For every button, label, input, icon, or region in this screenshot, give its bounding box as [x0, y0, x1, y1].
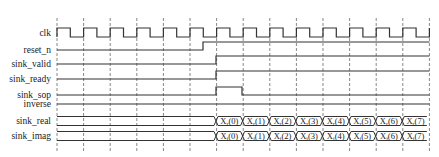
- signal-label-sink-valid: sink_valid: [11, 59, 51, 69]
- signal-label-clk: clk: [39, 28, 51, 38]
- signal-label-sink-real: sink_real: [16, 116, 51, 126]
- timing-diagram: clkreset_nsink_validsink_readysink_sopin…: [0, 0, 439, 157]
- signal-labels: clkreset_nsink_validsink_readysink_sopin…: [9, 28, 51, 141]
- signal-label-inverse: inverse: [24, 99, 51, 109]
- signal-label-sink-imag: sink_imag: [11, 131, 51, 141]
- clk-wave: [57, 28, 429, 37]
- sink-imag-bus: [57, 132, 427, 141]
- signal-label-sink-ready: sink_ready: [9, 74, 51, 84]
- signal-label-reset-n: reset_n: [24, 45, 52, 55]
